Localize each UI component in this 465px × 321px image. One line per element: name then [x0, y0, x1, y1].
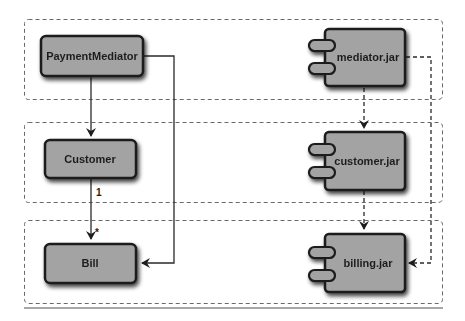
class-bill[interactable]: Bill — [45, 244, 136, 283]
class-label: PaymentMediator — [46, 50, 138, 62]
component-port-icon — [309, 63, 335, 74]
multiplicity-many: * — [95, 227, 99, 238]
component-port-icon — [309, 247, 335, 258]
component-port-icon — [309, 144, 335, 155]
component-port-icon — [309, 40, 335, 51]
component-port-icon — [309, 270, 335, 281]
multiplicity-one: 1 — [96, 187, 102, 198]
class-label: Customer — [64, 153, 116, 165]
class-payment-mediator[interactable]: PaymentMediator — [41, 36, 143, 76]
component-mediator-jar[interactable]: mediator.jar — [309, 29, 405, 86]
association-mediator-bill — [142, 56, 174, 263]
component-port-icon — [309, 167, 335, 178]
component-label: customer.jar — [334, 155, 400, 167]
dependency-mediator-billing — [406, 57, 431, 263]
component-customer-jar[interactable]: customer.jar — [309, 132, 405, 190]
component-billing-jar[interactable]: billing.jar — [309, 234, 405, 292]
class-label: Bill — [81, 257, 98, 269]
component-label: billing.jar — [344, 257, 394, 269]
association-customer-bill: 1 * — [91, 179, 102, 239]
class-customer[interactable]: Customer — [45, 140, 136, 178]
diagram-canvas: 1 * PaymentMediator Customer Bill mediat… — [0, 0, 465, 321]
component-label: mediator.jar — [337, 51, 400, 63]
